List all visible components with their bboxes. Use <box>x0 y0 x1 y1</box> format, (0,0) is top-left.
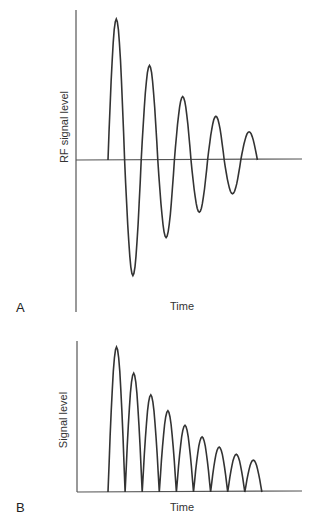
panel-a-letter: A <box>16 300 25 315</box>
panel-b-rectified-signal-curve <box>108 347 262 492</box>
panel-a-rf-signal-curve <box>108 19 257 276</box>
panel-b-x-axis <box>77 491 302 492</box>
panel-a-x-axis-label: Time <box>170 300 194 312</box>
panel-b-x-axis-label: Time <box>170 501 194 513</box>
panel-b-letter: B <box>16 500 25 515</box>
panel-b-y-axis-label: Signal level <box>57 389 69 451</box>
figure-canvas <box>0 0 310 519</box>
panel-a-y-axis-label: RF signal level <box>58 89 70 165</box>
panel-a-x-axis <box>76 159 302 160</box>
